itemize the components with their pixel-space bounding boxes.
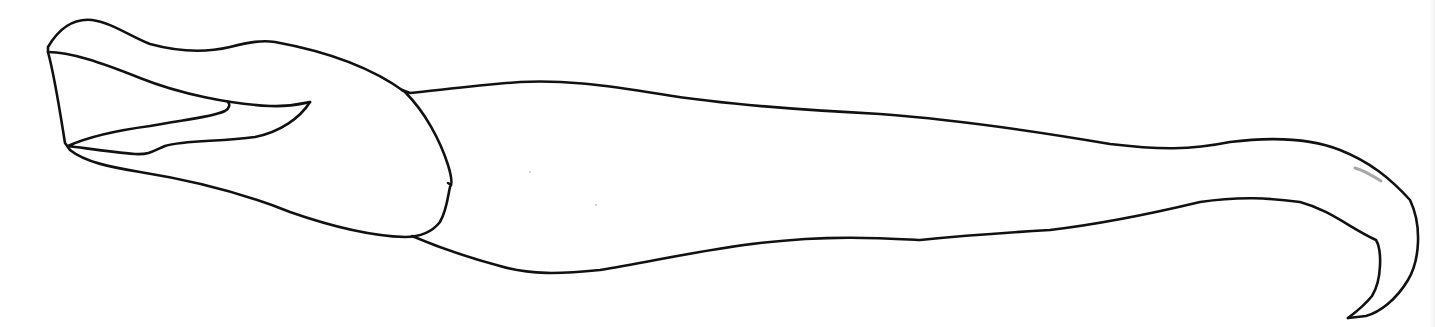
- speck: [529, 171, 531, 173]
- speck: [595, 204, 597, 206]
- inner-lobe: [68, 102, 310, 154]
- apical-lobe-outline: [48, 20, 451, 237]
- scan-edge: [1429, 0, 1435, 327]
- apical-dorsal-line: [48, 52, 310, 106]
- shaft-ventral-edge: [412, 198, 1380, 318]
- drawing-canvas: [0, 0, 1435, 327]
- apical-lobe-notch: [448, 183, 451, 185]
- specimen-drawing: [0, 0, 1435, 327]
